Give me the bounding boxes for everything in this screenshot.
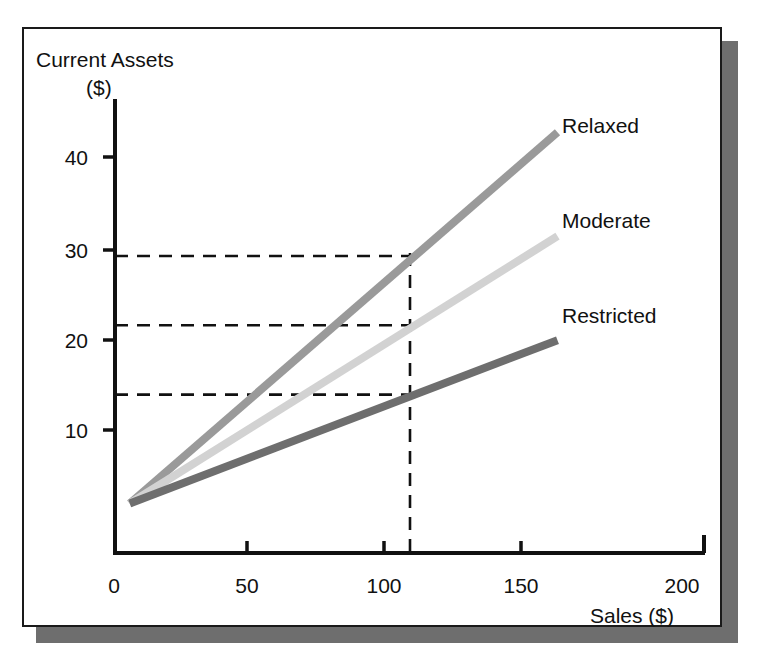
x-axis-title: Sales ($) — [590, 605, 674, 626]
series-relaxed — [130, 132, 558, 503]
series-label-restricted: Restricted — [562, 305, 657, 326]
y-axis-title-line2: ($) — [86, 77, 112, 98]
figure-frame: Current Assets ($) Sales ($) 40 30 20 10… — [22, 27, 722, 627]
x-tick-label-100: 100 — [356, 575, 412, 596]
y-tick-label-30: 30 — [42, 240, 88, 261]
y-tick-label-40: 40 — [42, 147, 88, 168]
x-tick-label-50: 50 — [219, 575, 275, 596]
y-tick-label-20: 20 — [42, 330, 88, 351]
y-tick-label-10: 10 — [42, 420, 88, 441]
y-axis-title-line1: Current Assets — [36, 49, 174, 70]
plot-area: Current Assets ($) Sales ($) 40 30 20 10… — [24, 29, 724, 629]
series-moderate — [130, 236, 558, 503]
x-tick-label-0: 0 — [86, 575, 142, 596]
series-label-moderate: Moderate — [562, 210, 651, 231]
x-tick-label-200: 200 — [654, 575, 710, 596]
series-restricted — [130, 340, 558, 503]
series-label-relaxed: Relaxed — [562, 115, 639, 136]
y-axis — [103, 99, 115, 553]
x-tick-label-150: 150 — [493, 575, 549, 596]
